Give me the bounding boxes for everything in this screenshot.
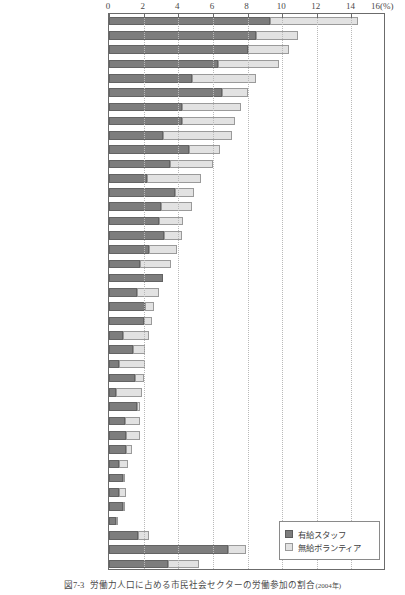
chart-row: コロンビア (109, 300, 384, 314)
x-tickmark-8 (248, 14, 249, 18)
bar-segment-unpaid-volunteer (222, 88, 248, 97)
stacked-bar (109, 231, 182, 240)
stacked-bar (109, 103, 241, 112)
x-tick-label-12: 12 (311, 0, 320, 12)
bar-segment-paid-staff (109, 145, 189, 154)
legend-item-1: 無給ボランティア (285, 541, 374, 553)
x-tick-label-16: 16(%) (371, 0, 394, 12)
bar-segment-unpaid-volunteer (126, 445, 131, 454)
gridline-6 (213, 14, 214, 569)
stacked-bar (109, 260, 171, 269)
stacked-bar (109, 188, 194, 197)
legend-label-0: 有給スタッフ (298, 528, 346, 540)
chart-row: 日 本 (109, 228, 384, 242)
bar-segment-paid-staff (109, 517, 116, 526)
chart-row: スウェーデン (109, 128, 384, 142)
bar-segment-paid-staff (109, 117, 182, 126)
legend-swatch-1 (285, 543, 293, 551)
x-tickmark-10 (282, 14, 283, 18)
bar-segment-paid-staff (109, 417, 125, 426)
bar-segment-paid-staff (109, 288, 137, 297)
legend-label-1: 無給ボランティア (298, 541, 361, 553)
bar-segment-unpaid-volunteer (125, 417, 141, 426)
chart-row: アイルランド (109, 43, 384, 57)
stacked-bar (109, 517, 118, 526)
plot-area: オランダベルギーアイルランドアメリカイギリスイスラエルフランスノルウェースウェー… (108, 13, 385, 570)
legend-item-0: 有給スタッフ (285, 528, 374, 540)
bar-segment-unpaid-volunteer (161, 202, 192, 211)
stacked-bar (109, 274, 163, 283)
bar-segment-paid-staff (109, 460, 119, 469)
stacked-bar (109, 374, 144, 383)
bar-segment-paid-staff (109, 103, 182, 112)
bar-segment-paid-staff (109, 231, 164, 240)
chart-row: ブラジル (109, 400, 384, 414)
bar-segment-paid-staff (109, 331, 123, 340)
chart-row: ノルウェー (109, 114, 384, 128)
x-tick-label-2: 2 (140, 0, 145, 12)
bar-segment-unpaid-volunteer (119, 460, 128, 469)
chart-row: スペイン (109, 214, 384, 228)
caption-number: 図7-3 (64, 580, 84, 590)
stacked-bar (109, 160, 213, 169)
bar-segment-unpaid-volunteer (168, 560, 199, 569)
x-tickmark-0 (109, 14, 110, 18)
chart-row: ペルー (109, 285, 384, 299)
bar-segment-paid-staff (109, 560, 168, 569)
bar-segment-paid-staff (109, 488, 119, 497)
bar-segment-unpaid-volunteer (182, 117, 236, 126)
bar-segment-unpaid-volunteer (126, 431, 140, 440)
bar-segment-paid-staff (109, 160, 170, 169)
chart-row: パキスタン (109, 457, 384, 471)
gridline-12 (317, 14, 318, 569)
bar-segment-unpaid-volunteer (144, 317, 153, 326)
bar-segment-paid-staff (109, 274, 163, 283)
bar-segment-paid-staff (109, 60, 218, 69)
bar-segment-unpaid-volunteer (116, 517, 118, 526)
figure-caption: 図7-3労働力人口に占める市民社会セクターの労働参加の割合(2004年) (0, 578, 405, 590)
chart-row: ケニヤ (109, 342, 384, 356)
chart-row: フランス (109, 100, 384, 114)
gridline-10 (282, 14, 283, 569)
stacked-bar (109, 17, 358, 26)
chart-row: 韓 国 (109, 314, 384, 328)
chart-row: インド (109, 428, 384, 442)
stacked-bar (109, 431, 140, 440)
bar-segment-paid-staff (109, 260, 140, 269)
gridline-4 (178, 14, 179, 569)
bar-segment-unpaid-volunteer (147, 174, 201, 183)
stacked-bar (109, 202, 192, 211)
x-axis-tick-labels: 0246810121416(%) (108, 0, 385, 14)
chart-row: イギリス (109, 71, 384, 85)
stacked-bar (109, 388, 142, 397)
x-tickmark-6 (213, 14, 214, 18)
bar-segment-unpaid-volunteer (149, 245, 177, 254)
x-tick-label-10: 10 (277, 0, 286, 12)
chart-row: オーストラリア (109, 143, 384, 157)
stacked-bar (109, 474, 125, 483)
bar-segment-unpaid-volunteer (182, 103, 241, 112)
chart-row: フィンランド (109, 171, 384, 185)
bar-segment-unpaid-volunteer (256, 31, 298, 40)
bar-segment-unpaid-volunteer (123, 474, 125, 483)
stacked-bar (109, 345, 145, 354)
bar-segment-unpaid-volunteer (135, 374, 144, 383)
chart-legend: 有給スタッフ無給ボランティア (279, 521, 380, 560)
bar-segment-paid-staff (109, 388, 116, 397)
stacked-bar (109, 145, 220, 154)
bar-segment-paid-staff (109, 360, 119, 369)
gridline-2 (144, 14, 145, 569)
bar-segment-unpaid-volunteer (170, 160, 213, 169)
gridline-8 (248, 14, 249, 569)
x-tick-label-4: 4 (175, 0, 180, 12)
bar-segment-unpaid-volunteer (189, 145, 220, 154)
stacked-bar (109, 302, 154, 311)
chart-row: アメリカ (109, 57, 384, 71)
stacked-bar (109, 217, 183, 226)
stacked-bar (109, 174, 201, 183)
caption-source: (2004年) (315, 582, 341, 590)
bar-segment-paid-staff (109, 174, 147, 183)
chart-row: イスラエル (109, 85, 384, 99)
stacked-bar (109, 488, 126, 497)
bar-segment-paid-staff (109, 202, 161, 211)
